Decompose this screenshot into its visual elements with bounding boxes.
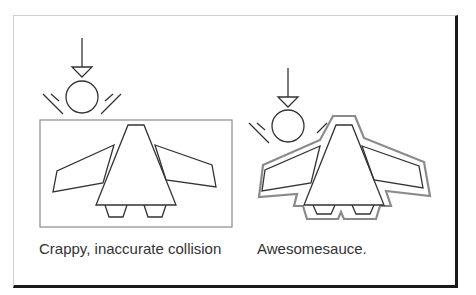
down-arrow-icon	[72, 38, 92, 77]
down-arrow-icon	[278, 68, 298, 107]
ball-icon	[272, 110, 304, 142]
panel-accurate	[249, 68, 430, 219]
collision-outline	[259, 116, 430, 219]
caption-accurate: Awesomesauce.	[257, 240, 367, 257]
spaceship-icon	[53, 125, 216, 217]
collision-box	[40, 120, 232, 227]
impact-lines-icon	[249, 123, 327, 143]
panel-inaccurate	[40, 38, 232, 227]
ball-icon	[66, 81, 98, 113]
impact-lines-icon	[43, 94, 121, 114]
spaceship-icon	[262, 125, 423, 214]
caption-inaccurate: Crappy, inaccurate collision	[39, 240, 221, 257]
